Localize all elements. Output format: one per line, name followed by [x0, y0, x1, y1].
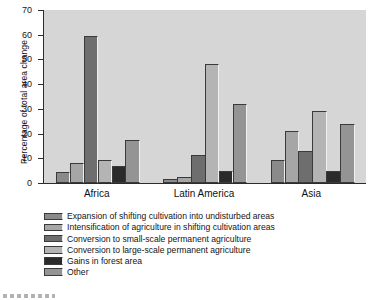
legend-swatch [44, 246, 63, 254]
y-axis-tick-label: 70 [0, 5, 32, 15]
bar [271, 160, 285, 183]
plot-area [43, 10, 366, 184]
bar [233, 104, 247, 183]
bar [56, 172, 70, 183]
bar [298, 151, 312, 183]
bar [112, 166, 126, 183]
bar [205, 64, 219, 183]
bar [285, 131, 299, 183]
bar [312, 111, 326, 183]
y-axis-tick [38, 158, 43, 159]
bar [98, 160, 112, 183]
legend-item: Intensification of agriculture in shifti… [44, 222, 364, 233]
y-axis-tick-label: 20 [0, 129, 32, 139]
y-axis-tick-label: 60 [0, 30, 32, 40]
legend-item: Conversion to small-scale permanent agri… [44, 233, 364, 244]
legend-swatch [44, 235, 63, 243]
scan-artifact [3, 294, 55, 298]
bar [191, 155, 205, 183]
legend-item: Expansion of shifting cultivation into u… [44, 211, 364, 222]
bar [219, 171, 233, 183]
legend-item: Other [44, 267, 364, 278]
y-axis-tick [38, 59, 43, 60]
legend-label: Intensification of agriculture in shifti… [67, 222, 275, 232]
bar [125, 140, 139, 183]
legend-swatch [44, 224, 63, 232]
bar [84, 36, 98, 183]
x-axis-category-label: Asia [302, 188, 321, 199]
legend-label: Gains in forest area [67, 256, 142, 266]
bar-chart-figure: Percentage of total area change 01020304… [0, 0, 372, 300]
y-axis-tick-label: 0 [0, 178, 32, 188]
legend-label: Other [67, 267, 89, 277]
bar [326, 171, 340, 183]
legend-item: Conversion to large-scale permanent agri… [44, 245, 364, 256]
bar [163, 179, 177, 183]
y-axis-tick-label: 30 [0, 104, 32, 114]
legend-label: Conversion to small-scale permanent agri… [67, 234, 251, 244]
legend-swatch [44, 213, 63, 221]
bar [340, 124, 354, 183]
legend-label: Expansion of shifting cultivation into u… [67, 211, 274, 221]
y-axis-tick [38, 183, 43, 184]
y-axis-tick [38, 109, 43, 110]
legend-swatch [44, 257, 63, 265]
x-axis-category-label: Africa [84, 188, 110, 199]
y-axis-tick [38, 10, 43, 11]
y-axis-tick [38, 35, 43, 36]
bar [177, 177, 191, 183]
y-axis-tick [38, 134, 43, 135]
chart-legend: Expansion of shifting cultivation into u… [44, 211, 364, 278]
plot-inner [44, 10, 366, 183]
y-axis-tick [38, 84, 43, 85]
x-axis-category-label: Latin America [174, 188, 235, 199]
legend-swatch [44, 268, 63, 276]
bar [70, 163, 84, 183]
y-axis-tick-label: 40 [0, 79, 32, 89]
y-axis-tick-label: 10 [0, 153, 32, 163]
legend-item: Gains in forest area [44, 256, 364, 267]
legend-label: Conversion to large-scale permanent agri… [67, 245, 250, 255]
y-axis-tick-label: 50 [0, 54, 32, 64]
